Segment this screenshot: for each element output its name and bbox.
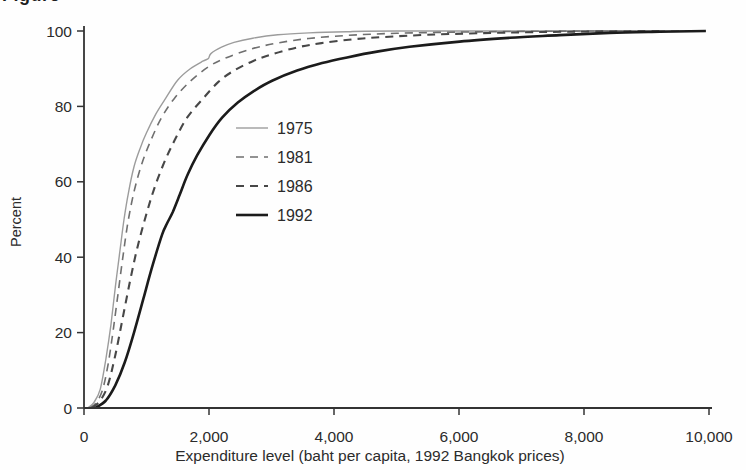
y-tick-label: 100 [46, 23, 72, 40]
curve-1981 [90, 31, 700, 408]
chart-canvas: 02,0004,0006,0008,00010,0000204060801001… [0, 0, 746, 470]
curve-1986 [92, 31, 665, 408]
y-tick-label: 0 [63, 400, 72, 417]
y-tick-label: 60 [55, 173, 73, 190]
y-tick-label: 20 [55, 324, 73, 341]
figure-container: Figure 02,0004,0006,0008,00010,000020406… [0, 0, 746, 470]
curve-1992 [95, 31, 706, 408]
x-axis-title: Expenditure level (baht per capita, 1992… [40, 447, 700, 465]
x-tick-label: 4,000 [315, 428, 354, 445]
legend-label-1975: 1975 [277, 120, 313, 137]
x-tick-label: 8,000 [565, 428, 604, 445]
x-tick-label: 2,000 [190, 428, 229, 445]
y-axis-title: Percent [8, 197, 24, 247]
legend: 1975198119861992 [236, 120, 313, 224]
curve-1975 [88, 31, 700, 408]
x-tick-label: 0 [80, 428, 89, 445]
x-tick-label: 10,000 [685, 428, 733, 445]
legend-label-1981: 1981 [277, 149, 313, 166]
legend-label-1986: 1986 [277, 178, 313, 195]
x-tick-label: 6,000 [440, 428, 479, 445]
axes: 02,0004,0006,0008,00010,000020406080100 [46, 23, 733, 446]
legend-label-1992: 1992 [277, 207, 313, 224]
y-tick-label: 40 [55, 249, 73, 266]
y-tick-label: 80 [55, 98, 73, 115]
